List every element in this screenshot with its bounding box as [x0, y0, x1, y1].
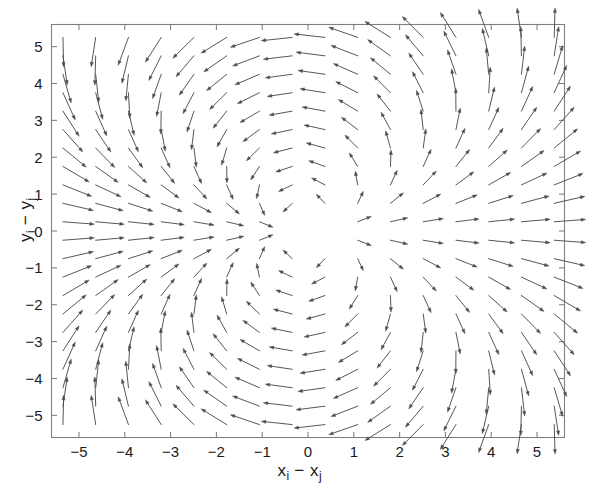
quiver-arrow [227, 248, 240, 259]
quiver-arrow [554, 173, 583, 184]
quiver-arrow [389, 296, 392, 313]
quiver-arrow [243, 130, 260, 142]
quiver-arrow [521, 277, 547, 289]
quiver-arrow [489, 87, 495, 111]
quiver-arrow [456, 108, 461, 130]
quiver-arrow [389, 150, 392, 167]
quiver-arrow [93, 56, 96, 85]
quiver-arrow [251, 166, 260, 179]
quiver-arrow [190, 130, 194, 150]
quiver-arrow [194, 249, 212, 258]
quiver-arrow [358, 240, 372, 245]
quiver-arrow [370, 58, 390, 75]
quiver-arrow [96, 166, 119, 182]
quiver-plot-canvas: −5−4−3−2−1012345−5−4−3−2−1012345 [0, 0, 599, 502]
quiver-arrow [521, 351, 532, 376]
quiver-arrow [489, 296, 508, 312]
quiver-arrow [554, 218, 586, 222]
quiver-arrow [128, 93, 131, 119]
quiver-arrow [273, 309, 292, 314]
quiver-arrow [354, 277, 357, 291]
quiver-arrow [159, 328, 162, 351]
x-tick-label: 0 [304, 443, 312, 460]
quiver-arrow [489, 107, 499, 129]
y-tick-label: −4 [25, 370, 42, 387]
quiver-arrow [265, 383, 292, 388]
quiver-arrow [161, 236, 184, 240]
quiver-arrow [412, 369, 423, 390]
quiver-arrow [283, 250, 292, 259]
quiver-arrow [423, 129, 427, 148]
quiver-arrow [521, 388, 525, 416]
quiver-arrow [298, 388, 325, 393]
quiver-arrow [488, 67, 491, 93]
quiver-arrow [456, 172, 474, 185]
quiver-arrow [456, 314, 465, 334]
quiver-arrow [370, 388, 390, 405]
quiver-arrow [128, 294, 142, 314]
quiver-arrow [554, 259, 585, 267]
quiver-arrow [63, 222, 94, 226]
quiver-arrow [187, 330, 194, 351]
x-tick-label: 5 [533, 443, 541, 460]
quiver-arrow [554, 151, 580, 167]
quiver-arrow [333, 64, 357, 75]
quiver-arrow [213, 111, 227, 128]
quiver-arrow [96, 265, 121, 277]
quiver-arrow [409, 53, 423, 74]
quiver-arrow [365, 21, 391, 37]
quiver-arrow [204, 56, 227, 72]
quiver-arrow [456, 128, 465, 148]
quiver-arrow [194, 148, 197, 167]
quiver-arrow [263, 56, 292, 60]
quiver-arrow [96, 203, 124, 211]
quiver-arrow [345, 314, 358, 327]
quiver-arrow [489, 240, 515, 244]
quiver-arrow [267, 93, 292, 98]
quiver-arrow [221, 297, 226, 314]
axis-ticks [52, 25, 565, 438]
quiver-arrow [300, 88, 325, 93]
quiver-arrow [271, 327, 292, 332]
quiver-arrow [554, 86, 570, 111]
quiver-arrow [161, 264, 179, 277]
quiver-arrow [456, 296, 470, 313]
quiver-arrow [125, 74, 129, 101]
quiver-arrow [456, 240, 479, 244]
quiver-arrow [194, 185, 207, 199]
quiver-arrow [90, 37, 95, 66]
quiver-arrow [294, 33, 325, 38]
quiver-arrow [423, 277, 436, 291]
quiver-arrow [261, 37, 292, 41]
quiver-arrow [217, 315, 227, 332]
quiver-arrow [521, 46, 525, 74]
quiver-arrow [230, 415, 259, 425]
quiver-arrow [246, 148, 259, 161]
x-tick-label: 1 [350, 443, 358, 460]
quiver-arrow [161, 222, 184, 226]
quiver-arrow [385, 314, 390, 331]
quiver-arrow [194, 166, 202, 183]
x-axis-label-base2: x [310, 461, 319, 480]
quiver-arrow [156, 345, 161, 369]
quiver-arrow [63, 295, 86, 314]
quiver-arrow [179, 367, 194, 388]
quiver-arrow [194, 263, 207, 277]
quiver-arrow [390, 217, 407, 221]
y-axis-label-sub1: i [24, 230, 38, 233]
quiver-arrow [263, 402, 292, 406]
quiver-arrow [194, 278, 202, 295]
quiver-arrow [521, 332, 536, 354]
quiver-arrow [390, 259, 403, 270]
quiver-arrow [161, 279, 175, 296]
quiver-arrow [302, 106, 325, 111]
quiver-arrow [456, 150, 470, 167]
quiver-arrow [276, 166, 293, 172]
quiver-arrow [416, 90, 423, 111]
quiver-arrow [227, 222, 244, 227]
quiver-arrow [333, 388, 357, 399]
y-axis-label-base1: y [16, 233, 35, 242]
quiver-arrow [256, 185, 259, 199]
quiver-arrow [521, 66, 529, 93]
quiver-arrow [489, 172, 511, 184]
